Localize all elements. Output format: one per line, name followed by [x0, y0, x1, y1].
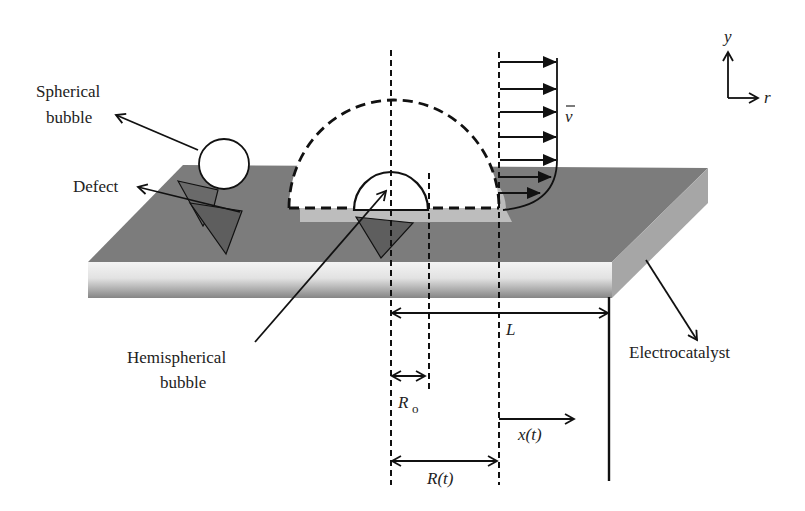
label-spherical-bubble-1: Spherical	[36, 82, 100, 101]
label-spherical-bubble-2: bubble	[46, 108, 92, 127]
pointer-spherical-bubble	[116, 115, 198, 150]
symbol-R0: R	[397, 393, 409, 412]
diagram-canvas: v y r Spherical bubble Defect Hemispheri…	[0, 0, 805, 511]
slab-front-face	[88, 262, 612, 298]
axis-r-label: r	[764, 88, 771, 107]
label-hemispherical-bubble-2: bubble	[160, 373, 206, 392]
symbol-R-t: R(t)	[426, 469, 454, 488]
symbol-L: L	[505, 320, 515, 339]
label-electrocatalyst: Electrocatalyst	[629, 343, 730, 362]
symbol-x-t: x(t)	[517, 425, 542, 444]
velocity-symbol: v	[565, 107, 573, 126]
pointer-electrocatalyst	[646, 260, 697, 340]
label-defect: Defect	[73, 177, 119, 196]
symbol-R0-subscript: o	[412, 401, 419, 416]
label-hemispherical-bubble-1: Hemispherical	[127, 348, 226, 367]
axis-y-label: y	[722, 27, 732, 46]
spherical-bubble	[199, 139, 249, 189]
coordinate-axes: y r	[722, 27, 771, 107]
